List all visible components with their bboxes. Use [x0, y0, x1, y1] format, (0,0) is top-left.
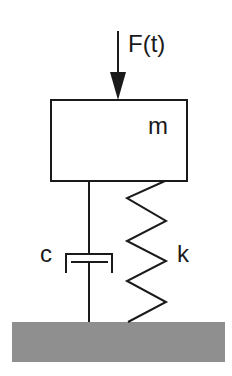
damper-label: c	[40, 240, 52, 267]
spring	[127, 181, 166, 322]
ground	[12, 322, 225, 362]
force-label: F(t)	[128, 30, 165, 57]
spring-label: k	[177, 240, 190, 267]
mass-spring-damper-diagram: F(t) m c k	[0, 0, 232, 376]
force-arrow	[110, 31, 126, 100]
mass-label: m	[148, 112, 168, 139]
damper	[66, 181, 112, 322]
